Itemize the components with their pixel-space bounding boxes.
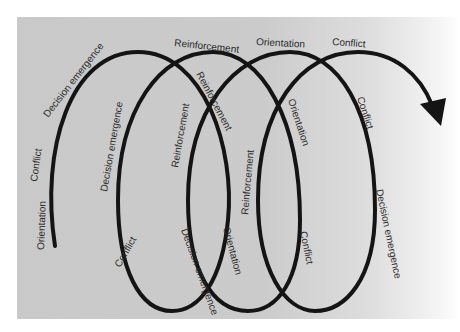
label-orientation-top-2: Conflict — [332, 36, 366, 49]
label-orientation-top-1: Orientation — [256, 36, 305, 50]
label-decision-emergence-1: Decision emergence — [41, 40, 106, 119]
label-conflict-4: Conflict — [298, 230, 316, 265]
label-conflict-1: Conflict — [28, 148, 44, 183]
label-decision-emergence-4: Decision emergence — [374, 188, 404, 280]
spiral-diagram: Orientation Conflict Decision emergence … — [0, 0, 460, 332]
arrowhead-icon — [420, 98, 446, 126]
label-orientation-start: Orientation — [35, 201, 48, 250]
label-reinforcement-4: Reinforcement — [239, 149, 256, 215]
label-reinforcement-2: Reinforcement — [169, 102, 191, 168]
label-decision-emergence-2: Decision emergence — [98, 100, 125, 192]
